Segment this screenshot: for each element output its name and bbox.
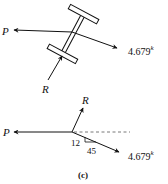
diagram-canvas: P 4.679k R P R 4.679k 12 45 (c) [0, 0, 168, 184]
force-value-label-bottom: 4.679k [128, 149, 155, 162]
i-beam [47, 4, 99, 63]
r-force-arrow-top [48, 56, 62, 80]
r-label-top: R [41, 83, 49, 95]
p-label-top: P [1, 25, 9, 37]
force-4679-arrow-top [72, 32, 117, 48]
p-force-arrow [14, 30, 72, 32]
force-value-label-top: 4.679k [128, 44, 155, 57]
r-force-arrow-bottom [72, 108, 83, 132]
top-diagram: P 4.679k R [1, 4, 155, 95]
figure-caption: (c) [78, 170, 88, 180]
slope-rise-label: 12 [71, 138, 80, 148]
p-label-bottom: P [2, 126, 10, 138]
r-label-bottom: R [81, 94, 89, 106]
bottom-diagram: P R 4.679k 12 45 [2, 94, 155, 162]
slope-run-label: 45 [87, 146, 97, 156]
